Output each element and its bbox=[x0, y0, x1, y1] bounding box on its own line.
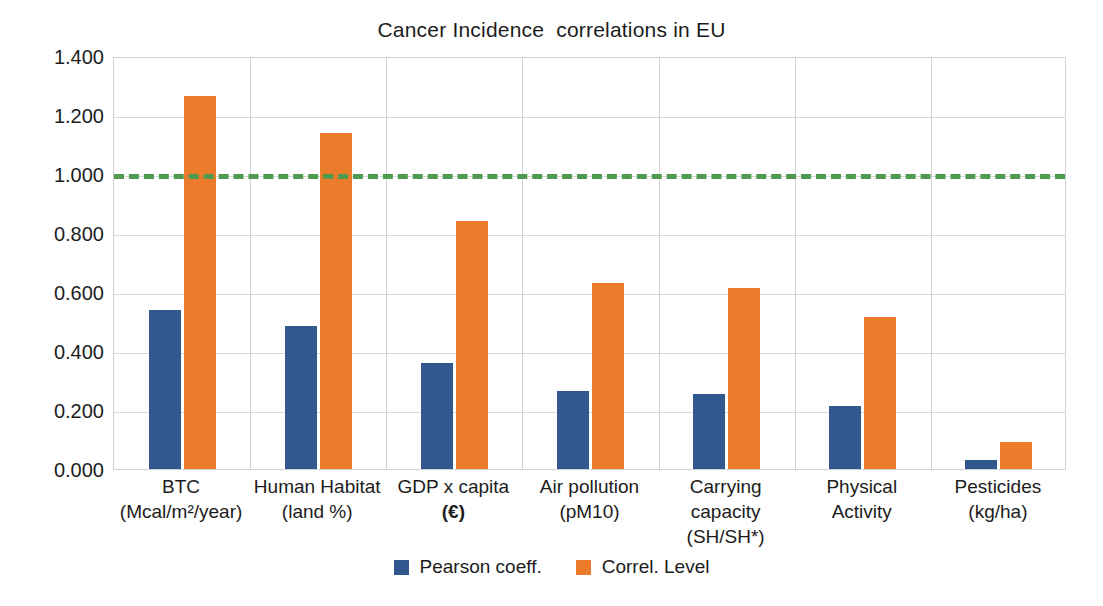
x-label-line2: capacity bbox=[658, 499, 794, 524]
bar-pearson[interactable] bbox=[285, 326, 317, 469]
chart-page: Cancer Incidence correlations in EU 1.40… bbox=[0, 0, 1103, 606]
x-label-line2: (kg/ha) bbox=[930, 499, 1066, 524]
x-label-line2: (pM10) bbox=[521, 499, 657, 524]
x-axis-category-label: Carryingcapacity(SH/SH*) bbox=[658, 474, 794, 549]
x-label-line1: Physical bbox=[826, 476, 897, 497]
x-label-line1: GDP x capita bbox=[398, 476, 510, 497]
y-axis-tick-label: 0.400 bbox=[12, 341, 104, 364]
x-label-line1: BTC bbox=[162, 476, 200, 497]
category-separator bbox=[795, 58, 796, 469]
threshold-line-icon bbox=[114, 174, 1065, 179]
x-label-line1: Human Habitat bbox=[254, 476, 381, 497]
bar-pearson[interactable] bbox=[965, 460, 997, 469]
x-axis-category-label: Human Habitat(land %) bbox=[249, 474, 385, 524]
y-axis-tick-label: 0.000 bbox=[12, 459, 104, 482]
chart-title: Cancer Incidence correlations in EU bbox=[0, 18, 1103, 42]
bar-correl[interactable] bbox=[184, 96, 216, 469]
y-axis-tick-label: 1.400 bbox=[12, 46, 104, 69]
legend-swatch-icon bbox=[576, 560, 591, 575]
bar-pearson[interactable] bbox=[149, 310, 181, 469]
legend-label: Pearson coeff. bbox=[420, 556, 542, 578]
bar-pearson[interactable] bbox=[421, 363, 453, 469]
x-axis: BTC(Mcal/m²/year)Human Habitat(land %)GD… bbox=[113, 474, 1066, 552]
x-axis-category-label: GDP x capita(€) bbox=[385, 474, 521, 524]
gridline bbox=[114, 117, 1065, 118]
bar-pearson[interactable] bbox=[693, 394, 725, 469]
bar-correl[interactable] bbox=[592, 283, 624, 469]
legend-entry[interactable]: Pearson coeff. bbox=[394, 556, 542, 578]
plot-area bbox=[113, 57, 1066, 470]
category-separator bbox=[931, 58, 932, 469]
x-label-line1: Carrying bbox=[690, 476, 762, 497]
chart-legend: Pearson coeff.Correl. Level bbox=[0, 556, 1103, 578]
legend-entry[interactable]: Correl. Level bbox=[576, 556, 710, 578]
bar-pearson[interactable] bbox=[557, 391, 589, 469]
category-separator bbox=[250, 58, 251, 469]
legend-label: Correl. Level bbox=[602, 556, 710, 578]
gridline bbox=[114, 294, 1065, 295]
x-label-line1: Air pollution bbox=[540, 476, 639, 497]
x-label-line2: Activity bbox=[794, 499, 930, 524]
bar-correl[interactable] bbox=[864, 317, 896, 469]
bar-correl[interactable] bbox=[320, 133, 352, 469]
bar-correl[interactable] bbox=[1000, 442, 1032, 469]
bar-pearson[interactable] bbox=[829, 406, 861, 469]
bar-correl[interactable] bbox=[456, 221, 488, 469]
gridline bbox=[114, 235, 1065, 236]
category-separator bbox=[386, 58, 387, 469]
x-axis-category-label: BTC(Mcal/m²/year) bbox=[113, 474, 249, 524]
y-axis-tick-label: 0.800 bbox=[12, 223, 104, 246]
x-label-line2: (Mcal/m²/year) bbox=[113, 499, 249, 524]
x-axis-category-label: Air pollution(pM10) bbox=[521, 474, 657, 524]
x-axis-category-label: Pesticides(kg/ha) bbox=[930, 474, 1066, 524]
x-label-line2: (€) bbox=[385, 499, 521, 524]
x-label-line3: (SH/SH*) bbox=[658, 524, 794, 549]
bar-correl[interactable] bbox=[728, 288, 760, 469]
y-axis-tick-label: 0.200 bbox=[12, 400, 104, 423]
x-label-line1: Pesticides bbox=[955, 476, 1042, 497]
category-separator bbox=[522, 58, 523, 469]
legend-swatch-icon bbox=[394, 560, 409, 575]
y-axis-tick-label: 0.600 bbox=[12, 282, 104, 305]
x-label-line2: (land %) bbox=[249, 499, 385, 524]
category-separator bbox=[659, 58, 660, 469]
y-axis: 1.4001.2001.0000.8000.6000.4000.2000.000 bbox=[0, 57, 104, 470]
y-axis-tick-label: 1.200 bbox=[12, 105, 104, 128]
y-axis-tick-label: 1.000 bbox=[12, 164, 104, 187]
gridline bbox=[114, 412, 1065, 413]
gridline bbox=[114, 353, 1065, 354]
x-axis-category-label: PhysicalActivity bbox=[794, 474, 930, 524]
